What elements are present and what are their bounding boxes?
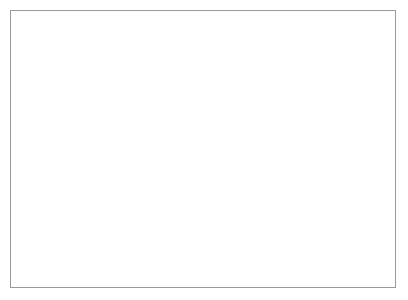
dsc-thermogram-figure: 040801201602003210-1-2-3-4Temperature /°…	[0, 0, 408, 300]
figure-border	[10, 10, 396, 288]
